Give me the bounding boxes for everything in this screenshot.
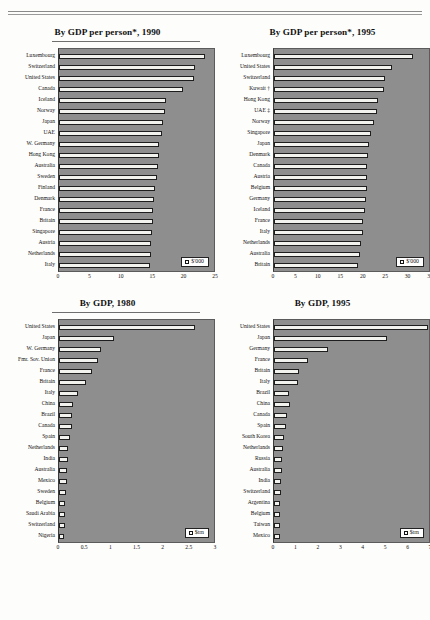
- category-label: Argentina: [217, 497, 273, 508]
- category-label: Belgium: [2, 497, 58, 508]
- category-label: China: [2, 398, 58, 409]
- bars-container: $'000: [273, 48, 430, 272]
- bar: [59, 347, 101, 352]
- category-label: Mexico: [217, 530, 273, 541]
- bar-row: [274, 399, 429, 410]
- bar-row: [274, 161, 429, 172]
- bar-row: [59, 227, 214, 238]
- bar-row: [59, 344, 214, 355]
- bar-row: [59, 117, 214, 128]
- bar-row: [274, 216, 429, 227]
- chart-legend: $'000: [181, 257, 209, 267]
- bar: [59, 336, 114, 341]
- bar: [274, 435, 284, 440]
- rule-line-thin: [8, 14, 422, 15]
- bar-row: [59, 487, 214, 498]
- x-axis-tick-label: 1: [109, 544, 112, 550]
- category-label: Netherlands: [2, 248, 58, 259]
- bar-row: [274, 410, 429, 421]
- bar: [59, 230, 152, 235]
- bar-row: [59, 333, 214, 344]
- bar-row: [59, 51, 214, 62]
- bar-row: [59, 205, 214, 216]
- bar: [274, 197, 366, 202]
- category-label: Britain: [2, 376, 58, 387]
- category-label: Sweden: [2, 171, 58, 182]
- plot-inner: United StatesJapanGermanyFranceBritainIt…: [217, 319, 430, 543]
- bar-row: [59, 498, 214, 509]
- plot-inner: LuxembourgSwitzerlandUnited StatesCanada…: [2, 48, 215, 272]
- bar: [59, 120, 163, 125]
- category-axis-labels: LuxembourgUnited StatesSwitzerlandKuwait…: [217, 48, 273, 272]
- bar-row: [59, 443, 214, 454]
- x-axis-tick-label: 5: [384, 544, 387, 550]
- bar-row: [274, 183, 429, 194]
- category-label: Hong Kong: [2, 149, 58, 160]
- category-label: Netherlands: [217, 237, 273, 248]
- bar: [59, 87, 183, 92]
- category-label: Singapore: [217, 127, 273, 138]
- category-label: India: [2, 453, 58, 464]
- category-label: Kuwait †: [217, 83, 273, 94]
- bar-row: [274, 498, 429, 509]
- bar-row: [274, 194, 429, 205]
- bar: [59, 457, 68, 462]
- bar: [59, 65, 195, 70]
- bar-row: [274, 454, 429, 465]
- bar-row: [59, 150, 214, 161]
- bar-row: [274, 150, 429, 161]
- chart-title: By GDP per person*, 1990: [0, 22, 215, 41]
- bar-row: [274, 344, 429, 355]
- x-axis: 05101520253035: [273, 272, 430, 283]
- category-label: Canada: [2, 83, 58, 94]
- legend-swatch-icon: [185, 260, 189, 264]
- bar: [274, 186, 367, 191]
- bar: [59, 479, 67, 484]
- bar: [59, 175, 157, 180]
- bar: [274, 534, 280, 539]
- bar-row: [59, 377, 214, 388]
- bar-row: [274, 106, 429, 117]
- category-label: South Korea: [217, 431, 273, 442]
- bar: [274, 219, 363, 224]
- category-label: Austria: [2, 237, 58, 248]
- bar-row: [59, 399, 214, 410]
- legend-label: $'000: [191, 259, 204, 265]
- bar-row: [59, 183, 214, 194]
- category-label: UAE ‡: [217, 105, 273, 116]
- bar-row: [59, 355, 214, 366]
- bar-row: [274, 238, 429, 249]
- bar: [59, 219, 153, 224]
- bar: [59, 325, 195, 330]
- category-label: Australia: [2, 464, 58, 475]
- category-label: Germany: [217, 193, 273, 204]
- page-root: By GDP per person*, 1990 LuxembourgSwitz…: [0, 0, 430, 620]
- bar-row: [274, 443, 429, 454]
- bar-row: [274, 84, 429, 95]
- category-label: Nigeria: [2, 530, 58, 541]
- bar: [274, 369, 299, 374]
- category-label: Spain: [217, 420, 273, 431]
- bar: [59, 501, 65, 506]
- bar: [59, 263, 150, 268]
- category-label: United States: [2, 321, 58, 332]
- bar: [274, 263, 358, 268]
- bar-row: [59, 95, 214, 106]
- category-axis-labels: LuxembourgSwitzerlandUnited StatesCanada…: [2, 48, 58, 272]
- legend-label: $trn: [410, 530, 419, 536]
- x-axis-tick-label: 15: [149, 273, 155, 279]
- bar: [59, 252, 151, 257]
- bar: [59, 241, 151, 246]
- bar: [274, 76, 385, 81]
- chart-plot-area: United StatesJapanGermanyFranceBritainIt…: [217, 319, 430, 554]
- category-label: Japan: [2, 116, 58, 127]
- x-axis-tick-label: 5: [88, 273, 91, 279]
- chart-plot-area: LuxembourgSwitzerlandUnited StatesCanada…: [2, 48, 215, 283]
- category-label: Italy: [2, 259, 58, 270]
- bar-row: [274, 62, 429, 73]
- category-label: United States: [2, 72, 58, 83]
- category-label: Luxembourg: [217, 50, 273, 61]
- category-label: United States: [217, 61, 273, 72]
- bar: [274, 175, 367, 180]
- category-label: Brazil: [217, 387, 273, 398]
